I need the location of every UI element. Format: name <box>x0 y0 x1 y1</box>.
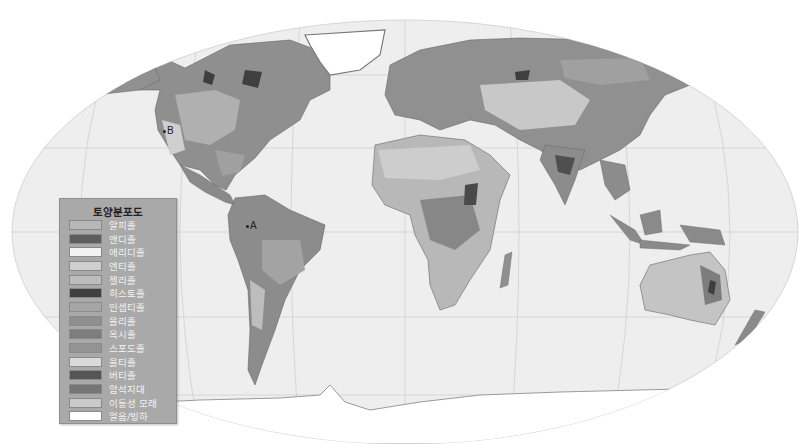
legend-swatch <box>69 384 102 394</box>
legend-swatch <box>69 220 102 230</box>
legend-item: 암석지대 <box>60 382 176 396</box>
legend-label: 애리디졸 <box>109 245 145 259</box>
map-marker-a: A <box>246 221 257 231</box>
marker-label: B <box>167 125 174 136</box>
legend-swatch <box>69 411 102 421</box>
legend-item: 히스토졸 <box>60 286 176 300</box>
legend-swatch <box>69 302 102 312</box>
legend-swatch <box>69 234 102 244</box>
legend-label: 스포도졸 <box>109 341 145 355</box>
legend-title: 토양분포도 <box>60 204 176 218</box>
legend-item: 몰리졸 <box>60 314 176 328</box>
map-marker-b: B <box>163 126 174 136</box>
soil-legend: 토양분포도 알피졸앤디졸애리디졸엔티졸젤리졸히스토졸인셉티졸몰리졸옥시졸스포도졸… <box>59 198 177 424</box>
legend-label: 몰리졸 <box>109 314 136 328</box>
legend-item: 젤리졸 <box>60 273 176 287</box>
legend-label: 버티졸 <box>109 368 136 382</box>
legend-label: 젤리졸 <box>109 273 136 287</box>
legend-item: 버티졸 <box>60 369 176 383</box>
legend-label: 암석지대 <box>109 382 145 396</box>
legend-item: 이동성 모래 <box>60 396 176 410</box>
legend-item: 인셉티졸 <box>60 300 176 314</box>
legend-item: 엔티졸 <box>60 259 176 273</box>
legend-swatch <box>69 398 102 408</box>
legend-item: 울티졸 <box>60 355 176 369</box>
legend-swatch <box>69 357 102 367</box>
legend-label: 알피졸 <box>109 218 136 232</box>
legend-label: 울티졸 <box>109 355 136 369</box>
legend-label: 인셉티졸 <box>109 300 145 314</box>
legend-label: 히스토졸 <box>109 286 145 300</box>
legend-item: 스포도졸 <box>60 341 176 355</box>
marker-dot <box>163 130 166 133</box>
world-soil-map: B A 토양분포도 알피졸앤디졸애리디졸엔티졸젤리졸히스토졸인셉티졸몰리졸옥시졸… <box>0 0 810 444</box>
legend-label: 이동성 모래 <box>109 396 157 410</box>
legend-label: 옥시졸 <box>109 327 136 341</box>
legend-swatch <box>69 370 102 380</box>
legend-label: 앤디졸 <box>109 232 136 246</box>
legend-swatch <box>69 288 102 298</box>
legend-swatch <box>69 316 102 326</box>
legend-item: 애리디졸 <box>60 245 176 259</box>
legend-item: 알피졸 <box>60 218 176 232</box>
legend-swatch <box>69 275 102 285</box>
legend-label: 엔티졸 <box>109 259 136 273</box>
legend-item: 옥시졸 <box>60 328 176 342</box>
legend-item: 앤디졸 <box>60 232 176 246</box>
legend-label: 얼음/빙하 <box>109 409 148 423</box>
legend-item: 얼음/빙하 <box>60 410 176 424</box>
legend-swatch <box>69 261 102 271</box>
legend-swatch <box>69 247 102 257</box>
marker-dot <box>246 225 249 228</box>
legend-swatch <box>69 329 102 339</box>
marker-label: A <box>250 220 257 231</box>
legend-swatch <box>69 343 102 353</box>
